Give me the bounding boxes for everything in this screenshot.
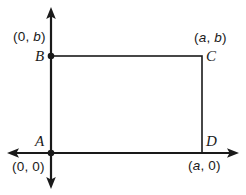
coord-c-close: ) [222, 30, 227, 45]
coord-c-y: b [214, 30, 222, 45]
coordinate-label-a: (0, 0) [12, 160, 45, 174]
vertex-dot-b [48, 53, 55, 60]
rectangle-abcd [51, 56, 202, 153]
coord-d-y: 0 [208, 158, 216, 173]
coord-b-y: b [33, 29, 41, 44]
coord-a-close: ) [40, 159, 45, 174]
coordinate-label-d: (a, 0) [188, 159, 221, 173]
coord-b-close: ) [41, 29, 46, 44]
vertex-dot-a [48, 150, 55, 157]
coord-a-y: 0 [32, 159, 40, 174]
coord-d-close: ) [216, 158, 221, 173]
vertex-label-a: A [35, 134, 44, 149]
vertex-label-b: B [35, 49, 44, 64]
coordinate-label-b: (0, b) [13, 30, 46, 44]
coordinate-label-c: (a, b) [194, 31, 227, 45]
vertex-label-d: D [206, 134, 217, 149]
coordinate-geometry-figure: (0, b) (a, b) (0, 0) (a, 0) B C A D [0, 0, 246, 195]
vertex-label-c: C [206, 49, 216, 64]
